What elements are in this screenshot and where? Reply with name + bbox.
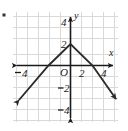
bullet-marker-icon xyxy=(3,14,6,17)
x-tick-label-neg4: 4 xyxy=(22,67,28,79)
x-tick-label-4: 4 xyxy=(101,67,107,79)
graph-svg: x y O 4 2 4 4 2 2 4 xyxy=(0,0,128,131)
origin-label: O xyxy=(60,66,68,78)
y-tick-label-neg4: 4 xyxy=(64,104,70,116)
y-tick-label-4: 4 xyxy=(61,16,67,28)
coordinate-plane-figure: x y O 4 2 4 4 2 2 4 xyxy=(0,0,128,131)
y-tick-label-neg2: 2 xyxy=(64,82,70,94)
y-tick-label-2: 2 xyxy=(61,38,67,50)
x-tick-label-2: 2 xyxy=(79,67,85,79)
x-axis-label: x xyxy=(108,47,114,58)
y-axis-label: y xyxy=(73,10,79,21)
